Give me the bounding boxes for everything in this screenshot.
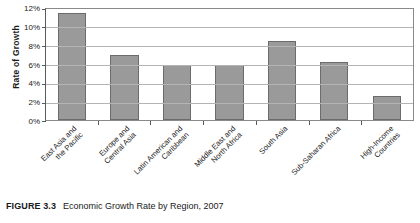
bar[interactable]	[320, 62, 348, 120]
gridline	[46, 103, 413, 104]
x-axis-category-label: Europe andCentral Asia	[96, 124, 138, 166]
y-axis-tickmark	[42, 103, 46, 104]
y-axis-tickmark	[42, 65, 46, 66]
x-axis-category-label: Middle East andNorth Africa	[192, 124, 244, 176]
y-axis-tick-label: 6%	[28, 60, 40, 69]
figure-caption: FIGURE 3.3Economic Growth Rate by Region…	[6, 201, 416, 211]
y-axis-tickmark	[42, 84, 46, 85]
y-axis-tick-label: 4%	[28, 79, 40, 88]
bar[interactable]	[373, 96, 401, 120]
bar[interactable]	[163, 65, 191, 120]
bar[interactable]	[58, 13, 86, 120]
figure-root: Rate of Growth 0%2%4%6%8%10%12% East Asi…	[0, 0, 420, 223]
bar[interactable]	[268, 41, 296, 120]
x-axis-category-label: Latin American andCaribbean	[132, 124, 191, 183]
y-axis-tick-label: 0%	[28, 117, 40, 126]
x-axis-category-label: Sub-Saharan Africa	[289, 124, 342, 177]
x-axis-category-label: High-IncomeCountries	[358, 124, 402, 168]
gridline	[46, 27, 413, 28]
bar-chart: Rate of Growth 0%2%4%6%8%10%12% East Asi…	[0, 0, 420, 196]
y-axis-tickmark	[42, 46, 46, 47]
y-axis-tick-label: 12%	[24, 4, 40, 13]
gridline	[46, 46, 413, 47]
y-axis-tickmark	[42, 9, 46, 10]
figure-title: Economic Growth Rate by Region, 2007	[63, 201, 224, 211]
y-axis-tick-label: 2%	[28, 98, 40, 107]
gridline	[46, 65, 413, 66]
y-axis-tick-labels: 0%2%4%6%8%10%12%	[14, 8, 40, 121]
gridline	[46, 84, 413, 85]
bar[interactable]	[215, 65, 243, 120]
x-axis-category-label: South Asia	[258, 124, 290, 156]
y-axis-tick-label: 10%	[24, 22, 40, 31]
y-axis-tick-label: 8%	[28, 41, 40, 50]
x-axis-category-labels: East Asia andthe PacificEurope andCentra…	[45, 124, 414, 194]
y-axis-tickmark	[42, 27, 46, 28]
plot-area	[45, 8, 414, 121]
x-axis-category-label: East Asia andthe Pacific	[40, 124, 86, 170]
figure-number: FIGURE 3.3	[6, 201, 56, 211]
